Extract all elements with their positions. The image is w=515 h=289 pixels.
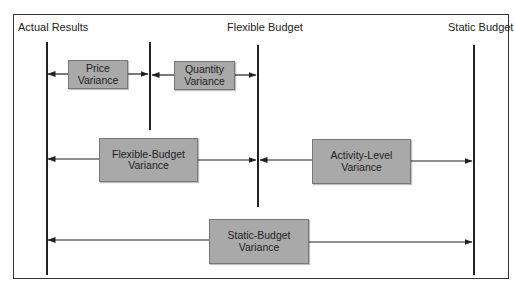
flexible-budget-variance-box: Flexible-Budget Variance (99, 138, 198, 182)
static-budget-variance-line2: Variance (239, 242, 280, 254)
price-variance-line1: Price (86, 63, 110, 75)
quantity-variance-box: Quantity Variance (174, 61, 235, 90)
static-budget-variance-line1: Static-Budget (227, 230, 290, 242)
quantity-variance-line1: Quantity (185, 64, 224, 76)
quantity-variance-line2: Variance (184, 76, 225, 88)
activity-level-variance-line2: Variance (341, 162, 382, 174)
static-budget-variance-box: Static-Budget Variance (209, 219, 309, 264)
price-variance-box: Price Variance (68, 60, 128, 89)
activity-level-variance-box: Activity-Level Variance (312, 139, 411, 184)
flexible-budget-variance-line2: Variance (128, 160, 169, 172)
price-variance-line2: Variance (78, 75, 119, 87)
activity-level-variance-line1: Activity-Level (331, 150, 393, 162)
